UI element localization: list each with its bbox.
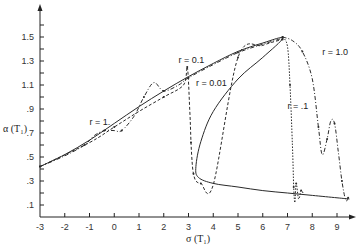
curve-annotation: r = 0.01 [196,78,227,88]
data-point-marker [326,138,328,140]
data-point-marker [341,180,343,182]
x-tick-label: 8 [310,222,315,232]
series-line-4 [283,37,349,201]
data-point-marker [190,142,192,144]
x-tick-label: 7 [285,222,290,232]
x-axis-title: σ (T₁) [186,233,210,245]
x-ticks: -3-2-10123456789 [36,213,340,232]
data-point-marker [186,66,188,68]
data-point-marker [103,130,105,132]
data-point-marker [121,130,123,132]
x-tick-label: 6 [260,222,265,232]
x-tick-label: 2 [161,222,166,232]
data-point-marker [282,36,284,38]
y-axis-title: α (T₁) [3,123,27,135]
y-ticks: .1.3.5.7.91.11.31.5 [21,25,44,210]
series-line-1 [40,38,283,166]
x-tick-label: 3 [186,222,191,232]
x-tick-label: -3 [36,222,44,232]
x-tick-label: 9 [334,222,339,232]
data-point-marker [192,173,194,175]
data-point-marker [237,52,239,54]
x-tick-label: 0 [112,222,117,232]
x-tick-label: 4 [211,222,216,232]
data-point-marker [200,182,202,184]
x-tick-label: -2 [61,222,69,232]
curve-annotation: r = 1. [90,117,111,127]
curve-annotation: r = .1 [288,101,309,111]
x-tick-label: 1 [136,222,141,232]
y-tick-label: .1 [26,200,34,210]
data-point-marker [334,122,336,124]
y-tick-label: 1.3 [21,56,34,66]
data-point-marker [282,38,284,40]
y-tick-label: 1.5 [21,32,34,42]
y-tick-label: 1.1 [21,80,34,90]
y-tick-label: .5 [26,152,34,162]
data-point-marker [113,126,115,128]
curve-annotation: r = 0.1 [179,55,205,65]
data-point-marker [317,126,319,128]
curve-annotation: r = 1.0 [322,47,348,57]
x-tick-label: 5 [235,222,240,232]
x-tick-label: -1 [85,222,93,232]
data-point-marker [163,96,165,98]
x-axis-arrow-icon [349,215,356,220]
data-point-marker [295,182,297,184]
y-tick-label: .9 [26,104,34,114]
data-point-marker [39,166,41,168]
data-point-marker [293,186,295,188]
y-tick-label: .3 [26,176,34,186]
axes [38,4,357,220]
data-point-marker [289,84,291,86]
data-point-marker [163,90,165,92]
y-axis-arrow-icon [38,4,43,11]
data-point-marker [301,50,303,52]
data-point-marker [237,56,239,58]
data-point-marker [347,197,349,199]
data-point-marker [143,96,145,98]
series-line-2 [40,39,283,193]
data-point-marker [300,190,302,192]
series-line-3 [283,37,304,203]
chart: -3-2-10123456789 .1.3.5.7.91.11.31.5 r =… [0,0,360,250]
y-tick-label: .7 [26,128,34,138]
annotations: r = 1.r = 0.1r = 0.01r = .1r = 1.0 [90,47,348,127]
